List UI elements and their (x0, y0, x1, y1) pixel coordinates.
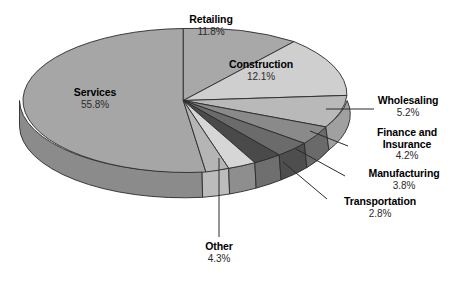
label-finance-name-line2: Insurance (364, 138, 450, 150)
label-services: Services 55.8% (52, 87, 138, 110)
label-services-name: Services (52, 87, 138, 99)
label-services-pct: 55.8% (52, 99, 138, 110)
label-finance-pct: 4.2% (364, 150, 450, 161)
label-construction-pct: 12.1% (206, 71, 316, 82)
label-retailing-pct: 11.8% (166, 26, 256, 37)
label-retailing-name: Retailing (166, 14, 256, 26)
label-construction-name: Construction (206, 59, 316, 71)
label-wholesaling: Wholesaling 5.2% (366, 95, 450, 118)
pie-chart: Retailing 11.8% Construction 12.1% Servi… (0, 0, 451, 281)
label-other: Other 4.3% (186, 241, 252, 264)
label-wholesaling-pct: 5.2% (366, 107, 450, 118)
label-wholesaling-name: Wholesaling (366, 95, 450, 107)
label-transportation: Transportation 2.8% (330, 196, 430, 219)
label-other-name: Other (186, 241, 252, 253)
label-retailing: Retailing 11.8% (166, 14, 256, 37)
label-finance-insurance: Finance and Insurance 4.2% (364, 126, 450, 161)
side-wall-other (202, 168, 230, 197)
label-manufacturing-name: Manufacturing (358, 168, 450, 180)
label-finance-name-line1: Finance and (364, 126, 450, 138)
label-other-pct: 4.3% (186, 253, 252, 264)
label-manufacturing-pct: 3.8% (358, 180, 450, 191)
label-manufacturing: Manufacturing 3.8% (358, 168, 450, 191)
label-transportation-pct: 2.8% (330, 208, 430, 219)
label-construction: Construction 12.1% (206, 59, 316, 82)
label-transportation-name: Transportation (330, 196, 430, 208)
